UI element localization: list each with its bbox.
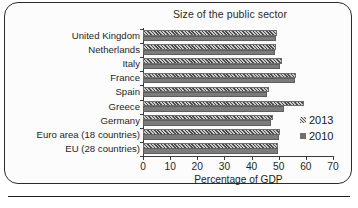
y-axis-label: Germany <box>6 115 140 126</box>
bar-2010 <box>143 106 284 111</box>
x-axis-tick-label: 60 <box>293 161 319 172</box>
y-axis-label: United Kingdom <box>6 30 140 41</box>
bar-group <box>143 71 333 85</box>
chart-title: Size of the public sector <box>140 8 320 20</box>
x-axis-tick <box>143 156 144 160</box>
legend-item: 2010 <box>300 128 356 144</box>
x-axis-tick <box>252 156 253 160</box>
x-axis-tick <box>224 156 225 160</box>
bar-group <box>143 43 333 57</box>
x-axis-tick-label: 10 <box>157 161 183 172</box>
bar-group <box>143 57 333 71</box>
y-axis-label: Greece <box>6 101 140 112</box>
x-axis-tick-label: 20 <box>184 161 210 172</box>
bar-group <box>143 29 333 43</box>
bar-2010 <box>143 64 280 69</box>
bar-2010 <box>143 92 267 97</box>
x-axis-tick <box>279 156 280 160</box>
bar-2010 <box>143 50 275 55</box>
legend-swatch-2013 <box>300 117 306 123</box>
y-axis-label: Euro area (18 countries) <box>6 129 140 140</box>
bar-group <box>143 85 333 99</box>
y-axis-label: Spain <box>6 86 140 97</box>
x-axis-tick-label: 0 <box>130 161 156 172</box>
x-axis-tick <box>306 156 307 160</box>
bar-2010 <box>143 148 278 153</box>
x-axis-tick-label: 40 <box>239 161 265 172</box>
legend-label: 2010 <box>309 130 333 142</box>
y-axis-label: Italy <box>6 58 140 69</box>
x-axis-tick-label: 50 <box>266 161 292 172</box>
bar-2010 <box>143 120 271 125</box>
legend-item: 2013 <box>300 112 356 128</box>
legend-label: 2013 <box>309 114 333 126</box>
x-axis-tick-label: 70 <box>320 161 346 172</box>
chart-legend: 20132010 <box>300 112 356 144</box>
x-axis-tick <box>333 156 334 160</box>
x-axis-tick <box>170 156 171 160</box>
y-axis-category-labels: United KingdomNetherlandsItalyFranceSpai… <box>6 29 140 156</box>
y-axis-label: Netherlands <box>6 44 140 55</box>
y-axis-label: France <box>6 72 140 83</box>
legend-swatch-2010 <box>300 133 306 139</box>
x-axis-title: Percentage of GDP <box>143 174 334 185</box>
bar-2010 <box>143 134 279 139</box>
y-axis-label: EU (28 countries) <box>6 143 140 154</box>
x-axis-tick-label: 30 <box>211 161 237 172</box>
bar-2010 <box>143 78 295 83</box>
bottom-divider <box>8 196 350 197</box>
bar-2010 <box>143 36 276 41</box>
x-axis-tick <box>197 156 198 160</box>
